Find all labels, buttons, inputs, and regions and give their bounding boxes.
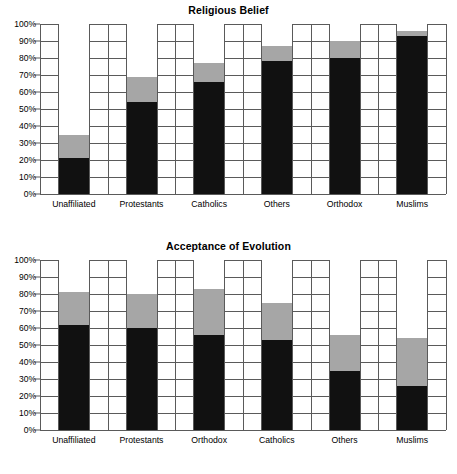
bar-segment-white <box>193 260 225 289</box>
category-divider-5 <box>378 260 379 430</box>
bar-segment-white <box>261 260 293 303</box>
chart-panel-acceptance-of-evolution: Acceptance of Evolution 0%10%20%30%40%50… <box>0 236 457 474</box>
y-axis-label-70: 70% <box>19 70 36 80</box>
bar-segment-white <box>261 24 293 46</box>
bar-segment-black <box>193 335 225 430</box>
stacked-bar[interactable] <box>193 260 225 430</box>
chart-panel-religious-belief: Religious Belief 0%10%20%30%40%50%60%70%… <box>0 0 457 232</box>
bar-segment-black <box>329 58 361 194</box>
bar-segment-black <box>58 325 90 430</box>
stacked-bar[interactable] <box>58 260 90 430</box>
stacked-bar[interactable] <box>329 24 361 194</box>
y-axis-label-100: 100% <box>14 255 36 265</box>
chart-title-bottom: Acceptance of Evolution <box>0 240 457 252</box>
y-axis-label-0: 0% <box>24 189 36 199</box>
bar-segment-black <box>193 82 225 194</box>
bar-segment-gray <box>261 303 293 340</box>
x-axis-label-catholics: Catholics <box>191 199 227 209</box>
y-axis-label-20: 20% <box>19 391 36 401</box>
bar-segment-black <box>329 371 361 431</box>
y-axis-label-10: 10% <box>19 408 36 418</box>
category-divider-6 <box>446 24 447 194</box>
bar-segment-black <box>126 328 158 430</box>
chart-title-top: Religious Belief <box>0 4 457 16</box>
category-divider-2 <box>175 24 176 194</box>
x-axis-label-others: Others <box>331 435 357 445</box>
bar-segment-gray <box>58 292 90 324</box>
x-axis-label-orthodox: Orthodox <box>191 435 227 445</box>
bar-segment-gray <box>329 41 361 58</box>
stacked-bar[interactable] <box>396 260 428 430</box>
bar-segment-white <box>126 24 158 77</box>
x-axis-label-muslims: Muslims <box>396 435 428 445</box>
category-divider-1 <box>108 260 109 430</box>
gridline-y-0 <box>40 430 446 431</box>
category-divider-0 <box>40 24 41 194</box>
bar-segment-black <box>261 340 293 430</box>
stacked-bar[interactable] <box>396 24 428 194</box>
bar-segment-white <box>396 260 428 338</box>
x-axis-label-muslims: Muslims <box>396 199 428 209</box>
bar-segment-white <box>58 260 90 292</box>
category-divider-4 <box>311 24 312 194</box>
bar-segment-white <box>58 24 90 135</box>
x-axis-label-others: Others <box>264 199 290 209</box>
bar-segment-gray <box>396 338 428 386</box>
stacked-bar[interactable] <box>193 24 225 194</box>
x-axis-label-catholics: Catholics <box>259 435 295 445</box>
figure: Religious Belief 0%10%20%30%40%50%60%70%… <box>0 0 457 474</box>
stacked-bar[interactable] <box>329 260 361 430</box>
y-axis-label-90: 90% <box>19 272 36 282</box>
category-divider-5 <box>378 24 379 194</box>
x-axis-label-orthodox: Orthodox <box>327 199 363 209</box>
plot-area-bottom: 0%10%20%30%40%50%60%70%80%90%100%Unaffil… <box>40 260 446 430</box>
category-divider-6 <box>446 260 447 430</box>
y-axis-label-40: 40% <box>19 121 36 131</box>
bar-segment-white <box>329 260 361 335</box>
bar-segment-gray <box>193 289 225 335</box>
bar-segment-black <box>396 386 428 430</box>
y-axis-label-50: 50% <box>19 340 36 350</box>
y-axis-label-90: 90% <box>19 36 36 46</box>
y-axis-label-70: 70% <box>19 306 36 316</box>
x-axis-label-protestants: Protestants <box>120 199 164 209</box>
y-axis-label-80: 80% <box>19 289 36 299</box>
x-axis-label-unaffiliated: Unaffiliated <box>52 435 95 445</box>
category-divider-4 <box>311 260 312 430</box>
bar-segment-white <box>193 24 225 63</box>
bar-segment-black <box>261 61 293 194</box>
gridline-y-0 <box>40 194 446 195</box>
bar-segment-gray <box>193 63 225 82</box>
bar-segment-white <box>126 260 158 294</box>
stacked-bar[interactable] <box>126 24 158 194</box>
stacked-bar[interactable] <box>126 260 158 430</box>
stacked-bar[interactable] <box>261 24 293 194</box>
plot-area-top: 0%10%20%30%40%50%60%70%80%90%100%Unaffil… <box>40 24 446 194</box>
y-axis-label-100: 100% <box>14 19 36 29</box>
stacked-bar[interactable] <box>58 24 90 194</box>
category-divider-3 <box>243 24 244 194</box>
bar-segment-gray <box>261 46 293 61</box>
bar-segment-black <box>58 158 90 194</box>
y-axis-label-50: 50% <box>19 104 36 114</box>
bar-segment-gray <box>126 294 158 328</box>
x-axis-label-unaffiliated: Unaffiliated <box>52 199 95 209</box>
y-axis-label-0: 0% <box>24 425 36 435</box>
bar-segment-gray <box>329 335 361 371</box>
bar-segment-white <box>396 24 428 31</box>
y-axis-label-30: 30% <box>19 138 36 148</box>
y-axis-label-20: 20% <box>19 155 36 165</box>
category-divider-3 <box>243 260 244 430</box>
y-axis-label-60: 60% <box>19 323 36 333</box>
y-axis-label-40: 40% <box>19 357 36 367</box>
bar-segment-black <box>126 102 158 194</box>
bar-segment-gray <box>126 77 158 103</box>
bar-segment-white <box>329 24 361 41</box>
y-axis-label-30: 30% <box>19 374 36 384</box>
bar-segment-black <box>396 36 428 194</box>
bar-segment-gray <box>58 135 90 159</box>
category-divider-1 <box>108 24 109 194</box>
stacked-bar[interactable] <box>261 260 293 430</box>
y-axis-label-10: 10% <box>19 172 36 182</box>
category-divider-2 <box>175 260 176 430</box>
